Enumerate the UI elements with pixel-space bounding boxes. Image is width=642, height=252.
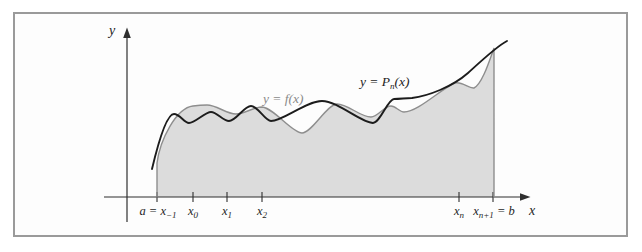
tick-label-x0: x0 <box>188 205 198 218</box>
tick-post: = b <box>494 204 515 218</box>
tick-sub: 2 <box>263 210 268 220</box>
plot-svg <box>0 0 642 252</box>
tick-base: x <box>257 204 263 218</box>
tick-base: x <box>188 204 194 218</box>
shaded-area-under-f <box>157 48 494 197</box>
curve-label-pn-post: (x) <box>395 74 410 89</box>
tick-base: x <box>222 204 228 218</box>
tick-label-x1: x1 <box>222 205 232 218</box>
tick-base: x <box>473 204 479 218</box>
tick-pre: a = <box>139 204 160 218</box>
tick-sub: 1 <box>228 210 233 220</box>
tick-label-x2: x2 <box>257 205 267 218</box>
curve-label-pn-pre: y = P <box>360 74 390 89</box>
curve-label-pn: y = Pn(x) <box>360 75 410 89</box>
tick-sub: n <box>460 210 465 220</box>
tick-sub: n+1 <box>479 210 494 220</box>
y-axis-label: y <box>109 24 115 38</box>
tick-sub: −1 <box>166 210 177 220</box>
x-axis-arrowhead-icon <box>520 193 531 201</box>
tick-label-a-equals-x-minus-1: a = x−1 <box>139 205 176 218</box>
tick-sub: 0 <box>194 210 199 220</box>
tick-label-xn: xn <box>454 205 464 218</box>
tick-base: x <box>160 204 166 218</box>
tick-base: x <box>454 204 460 218</box>
curve-label-f-text: y = f(x) <box>263 91 304 106</box>
figure-canvas: y x y = f(x) y = Pn(x) a = x−1 x0 x1 x2 … <box>0 0 642 252</box>
curve-label-f: y = f(x) <box>263 92 304 106</box>
tick-label-xn-plus-1-equals-b: xn+1 = b <box>473 205 515 218</box>
y-axis-arrowhead-icon <box>123 28 131 39</box>
x-axis-label: x <box>529 204 535 218</box>
curve-label-pn-subscript: n <box>390 81 395 91</box>
